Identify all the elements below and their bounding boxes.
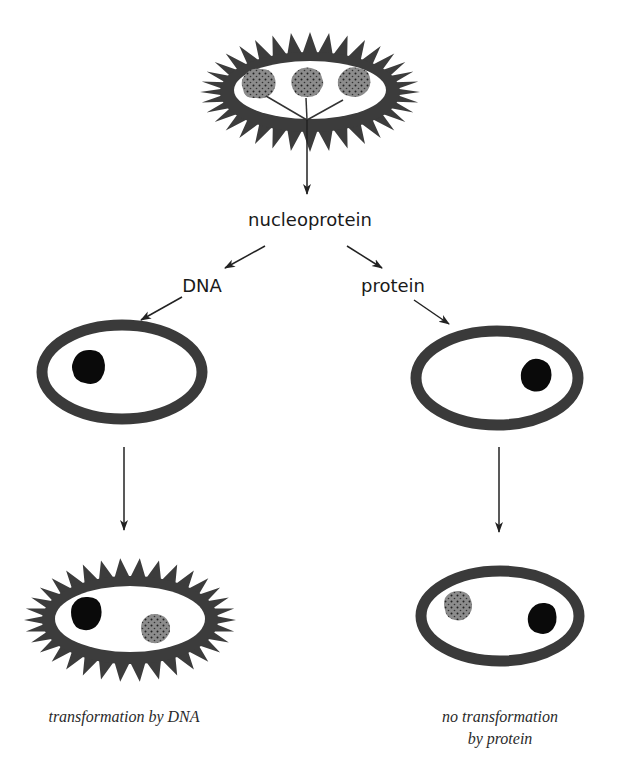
- source-cell: [200, 32, 420, 152]
- dna-label: DNA: [182, 275, 222, 296]
- recipient-cell-left: [42, 325, 202, 419]
- stippled-chromosome-icon: [242, 69, 276, 99]
- arrow-to-protein: [347, 246, 382, 268]
- caption-right-line1: no transformation: [442, 708, 558, 726]
- stippled-chromosome-icon: [291, 68, 323, 98]
- arrow-protein-to-cell: [414, 300, 449, 324]
- caption-left: transformation by DNA: [48, 708, 199, 726]
- arrow-to-dna: [225, 246, 265, 268]
- black-chromosome-icon: [521, 359, 552, 392]
- recipient-cell-right: [416, 331, 578, 425]
- black-chromosome-icon: [71, 597, 102, 630]
- black-chromosome-icon: [72, 350, 105, 384]
- arrow-dna-to-cell: [141, 297, 182, 320]
- protein-label: protein: [361, 275, 425, 296]
- nucleoprotein-label: nucleoprotein: [248, 209, 372, 230]
- black-chromosome-icon: [528, 603, 557, 634]
- result-cell-right: [421, 571, 579, 661]
- caption-right-line2: by protein: [468, 730, 533, 748]
- result-cell-left: [24, 558, 236, 681]
- transformation-diagram: nucleoprotein DNA protein transformation…: [0, 0, 619, 761]
- stippled-chromosome-icon: [444, 591, 472, 621]
